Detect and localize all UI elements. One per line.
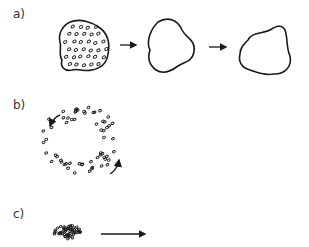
cell-dot [67,32,71,36]
ring-dot [68,162,72,165]
cell-dot [82,63,86,67]
cell-dot [64,55,68,59]
ring-dot [98,109,102,112]
ring-dot [66,116,70,119]
cell-dot [78,54,82,58]
ring-dot [44,138,48,141]
rotation-arrow-bottom-right [110,160,119,174]
panel-b [41,106,119,175]
ring-dot [87,106,91,109]
cell-dot [68,62,72,66]
ring-dot [111,137,115,140]
diagram-canvas [0,0,309,247]
ring-dot [100,164,104,167]
cell-dot [88,48,92,52]
cell-dot [96,32,100,36]
ring-dot [107,124,111,127]
ring-dot [65,121,69,124]
cell-dot [63,40,67,44]
ring-dots [41,106,115,175]
ring-dot [112,150,116,153]
cell-dot [93,41,97,45]
ring-dot [95,122,99,125]
cell-dot [74,48,78,52]
ring-dot [111,122,115,125]
cell-dot [81,47,85,51]
cell-dot [86,54,90,58]
cell-dot [102,55,106,59]
cell-dot [89,32,93,36]
ring-dot [106,115,110,118]
ring-dot [107,158,111,161]
cell-dot [67,47,71,51]
cell-dot [87,40,91,44]
cell-dot [82,32,86,36]
ring-dot [89,160,93,163]
ring-dot [55,155,59,158]
cell-dot [85,26,89,30]
rotation-arrow-top-left [50,115,60,126]
cell-dot [70,24,74,28]
cluster-dot [59,225,62,228]
cell-dot [74,62,78,66]
ring-dot [73,171,77,174]
cluster-dot [54,229,57,232]
empty-shape-1 [148,19,194,72]
ring-dot [50,126,54,129]
cell-dot [72,39,76,43]
ring-dot [50,160,54,163]
ring-dot [102,136,106,139]
cell-dot [93,55,97,59]
cell-dots [63,24,109,67]
ring-dot [42,141,46,144]
cell-dot [96,48,100,52]
ring-dot [47,117,51,120]
cluster-dots [53,224,82,240]
panel-a [59,19,290,74]
ring-dot [62,116,66,119]
cell-dot [89,62,93,66]
cell-dot [74,32,78,36]
ring-dot [101,120,105,123]
cell-dot [96,62,100,66]
cell-dot [79,25,83,29]
cell-dot [101,39,105,43]
cell-dot [72,55,76,59]
ring-dot [102,156,106,159]
ring-dot [41,129,45,132]
ring-dot [44,151,48,154]
aggregate-with-cells [59,20,108,70]
ring-dot [106,163,110,166]
ring-dot [82,110,86,113]
panel-c [53,224,145,240]
ring-dot [61,110,65,113]
cell-dot [79,40,83,44]
ring-dot [96,156,100,159]
ring-dot [59,159,63,162]
empty-shape-2 [239,26,290,74]
ring-dot [66,166,70,169]
